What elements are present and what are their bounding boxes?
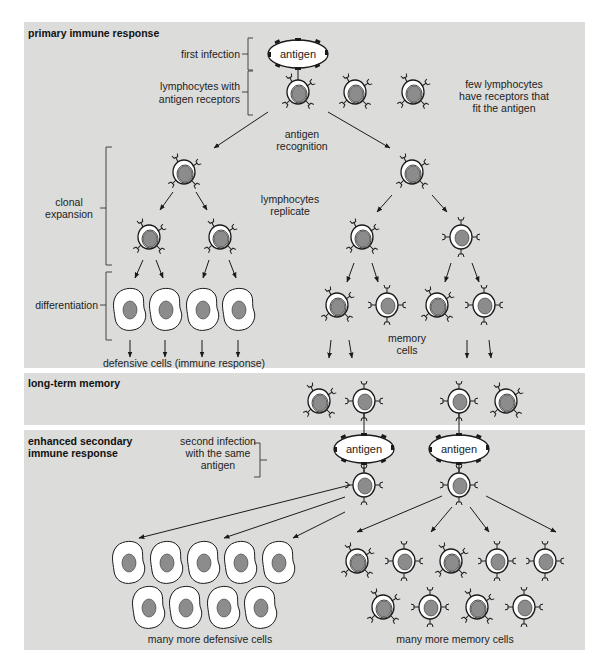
title-secondary-immune-response-2: immune response xyxy=(28,447,118,459)
label-antigen-left: antigen xyxy=(342,443,386,455)
label-memory-cells-2: cells xyxy=(382,344,432,356)
label-second-infection-1: second infection xyxy=(176,435,260,447)
label-first-infection: first infection xyxy=(181,48,240,60)
title-secondary-immune-response-1: enhanced secondary xyxy=(28,435,132,447)
label-few-lymphocytes-3: fit the antigen xyxy=(450,102,558,114)
label-second-infection-2: with the same xyxy=(176,447,260,459)
label-antigen-recognition-2: recognition xyxy=(262,140,342,152)
label-differentiation: differentiation xyxy=(35,299,98,311)
secondary-arrows xyxy=(139,485,556,538)
label-many-more-defensive-cells: many more defensive cells xyxy=(125,633,295,645)
label-lymphocytes-replicate-1: lymphocytes xyxy=(250,193,330,205)
label-clonal-expansion-1: clonal xyxy=(40,196,98,208)
label-few-lymphocytes-2: have receptors that xyxy=(450,90,558,102)
label-clonal-expansion-2: expansion xyxy=(40,208,98,220)
label-lymphocytes-replicate-2: replicate xyxy=(250,205,330,217)
label-lymphocytes-with-receptors-2: antigen receptors xyxy=(159,93,240,105)
label-second-infection-3: antigen xyxy=(176,459,260,471)
title-primary-immune-response: primary immune response xyxy=(28,27,159,39)
label-many-more-memory-cells: many more memory cells xyxy=(375,633,535,645)
label-antigen-right: antigen xyxy=(437,443,481,455)
label-antigen-primary: antigen xyxy=(276,48,320,60)
label-memory-cells-1: memory xyxy=(382,332,432,344)
label-defensive-cells: defensive cells (immune response) xyxy=(90,357,278,369)
label-few-lymphocytes-1: few lymphocytes xyxy=(450,78,558,90)
title-long-term-memory: long-term memory xyxy=(28,377,120,389)
label-antigen-recognition-1: antigen xyxy=(262,128,342,140)
label-lymphocytes-with-receptors-1: lymphocytes with xyxy=(160,80,240,92)
